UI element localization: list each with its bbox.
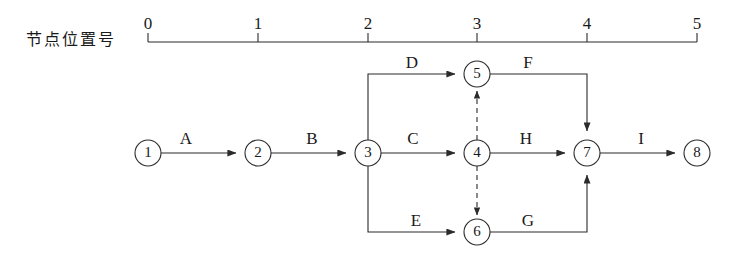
axis-tick-label-5: 5 [693,14,702,33]
node-3-label: 3 [364,144,372,160]
position-scale-axis: 0 1 2 3 4 5 [144,14,702,42]
node-2-label: 2 [254,144,262,160]
activity-label-B: B [306,129,317,148]
node-4: 4 [464,140,490,166]
node-1: 1 [135,140,161,166]
node-4-label: 4 [473,144,481,160]
axis-tick-label-0: 0 [144,14,153,33]
network-diagram-canvas: 0 1 2 3 4 5 [0,0,739,261]
activity-label-A: A [180,129,193,148]
activity-label-F: F [523,53,532,72]
activity-label-C: C [407,129,418,148]
node-1-label: 1 [144,144,152,160]
node-7: 7 [574,140,600,166]
activity-label-D: D [406,53,418,72]
axis-tick-label-3: 3 [473,14,482,33]
activity-label-I: I [638,129,644,148]
node-3: 3 [355,140,381,166]
edge-G [490,175,587,232]
axis-tick-label-1: 1 [254,14,263,33]
node-7-label: 7 [583,144,591,160]
node-8: 8 [684,140,710,166]
activity-label-H: H [520,129,532,148]
activity-label-E: E [411,211,421,230]
axis-tick-label-4: 4 [583,14,592,33]
edge-F [490,74,587,131]
activity-label-G: G [522,211,534,230]
node-6-label: 6 [473,223,481,239]
activity-labels: A B C D E F G H I [180,53,644,230]
node-8-label: 8 [693,144,701,160]
node-5: 5 [464,61,490,87]
node-2: 2 [245,140,271,166]
node-6: 6 [464,219,490,245]
node-5-label: 5 [473,65,481,81]
network-diagram-page: 节点位置号 0 1 2 3 4 5 [0,0,739,261]
axis-tick-label-2: 2 [364,14,373,33]
